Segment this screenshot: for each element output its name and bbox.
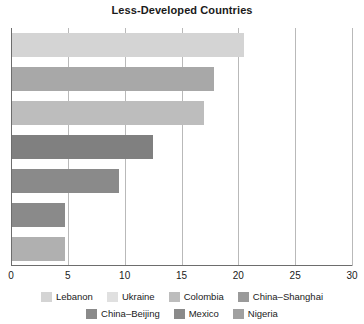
legend-item[interactable]: China–Shanghai xyxy=(238,291,323,302)
plot-area xyxy=(11,28,352,266)
gridline xyxy=(352,28,353,266)
bar-fill xyxy=(12,33,244,57)
bar xyxy=(12,237,65,261)
legend-swatch xyxy=(238,292,249,302)
bar xyxy=(12,135,153,159)
x-tick-label: 0 xyxy=(8,270,14,281)
legend-item[interactable]: Colombia xyxy=(169,291,224,302)
legend-swatch xyxy=(233,309,244,319)
x-tick-label: 5 xyxy=(65,270,71,281)
bar-fill xyxy=(12,67,214,91)
legend-item[interactable]: China–Beijing xyxy=(86,308,160,319)
legend-row: China–BeijingMexicoNigeria xyxy=(0,305,364,322)
legend-label: China–Shanghai xyxy=(253,291,323,302)
bar-fill xyxy=(12,203,65,227)
legend-item[interactable]: Mexico xyxy=(174,308,219,319)
gridline xyxy=(238,28,239,266)
bar xyxy=(12,67,214,91)
bar xyxy=(12,101,204,125)
gridline xyxy=(182,28,183,266)
legend-label: Lebanon xyxy=(56,291,93,302)
legend-swatch xyxy=(107,292,118,302)
legend-swatch xyxy=(86,309,97,319)
legend-label: Ukraine xyxy=(122,291,155,302)
legend-label: Colombia xyxy=(184,291,224,302)
bar-fill xyxy=(12,135,153,159)
legend-swatch xyxy=(41,292,52,302)
bar xyxy=(12,169,119,193)
legend-item[interactable]: Ukraine xyxy=(107,291,155,302)
bar-fill xyxy=(12,101,204,125)
bar-fill xyxy=(12,169,119,193)
bar-fill xyxy=(12,237,65,261)
bar xyxy=(12,203,65,227)
chart-container: Less-Developed Countries 051015202530 Le… xyxy=(0,0,364,324)
legend-label: Nigeria xyxy=(248,308,278,319)
chart-legend: LebanonUkraineColombiaChina–Shanghai Chi… xyxy=(0,288,364,322)
x-axis-line xyxy=(11,265,352,266)
legend-item[interactable]: Nigeria xyxy=(233,308,278,319)
chart-title: Less-Developed Countries xyxy=(0,4,364,16)
bar xyxy=(12,33,244,57)
legend-swatch xyxy=(174,309,185,319)
y-axis-line xyxy=(11,28,12,266)
legend-row: LebanonUkraineColombiaChina–Shanghai xyxy=(0,288,364,305)
gridline xyxy=(295,28,296,266)
legend-swatch xyxy=(169,292,180,302)
x-tick-label: 25 xyxy=(290,270,301,281)
legend-item[interactable]: Lebanon xyxy=(41,291,93,302)
x-tick-label: 20 xyxy=(233,270,244,281)
legend-label: China–Beijing xyxy=(101,308,160,319)
x-tick-label: 30 xyxy=(346,270,357,281)
legend-label: Mexico xyxy=(189,308,219,319)
x-tick-label: 15 xyxy=(176,270,187,281)
x-tick-label: 10 xyxy=(119,270,130,281)
